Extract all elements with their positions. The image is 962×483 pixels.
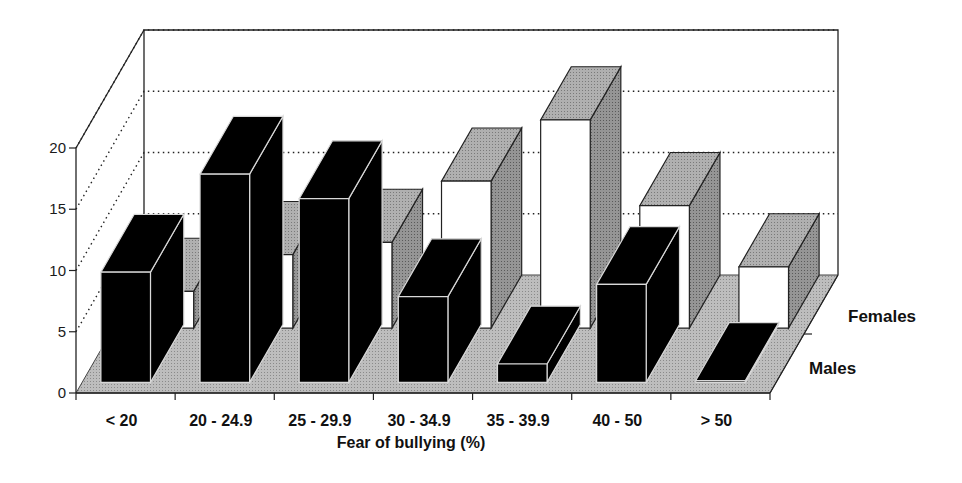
x-category-label: 20 - 24.9 (189, 412, 252, 429)
y-tick-label: 15 (49, 200, 66, 217)
x-category-label: 25 - 29.9 (288, 412, 351, 429)
x-category-label: 30 - 34.9 (387, 412, 450, 429)
y-tick-label: 10 (49, 262, 66, 279)
series-label-males: Males (809, 359, 856, 378)
x-category-label: 35 - 39.9 (487, 412, 550, 429)
y-tick-label: 5 (58, 323, 66, 340)
x-axis-title: Fear of bullying (%) (337, 434, 485, 451)
series-label-females: Females (848, 307, 916, 326)
male-bar-1 (200, 116, 283, 382)
male-bar-2 (299, 141, 382, 383)
x-category-label: < 20 (106, 412, 138, 429)
x-axis-category-labels: < 2020 - 24.925 - 29.930 - 34.935 - 39.9… (106, 412, 733, 429)
y-tick-label: 20 (49, 139, 66, 156)
series-depth-labels: FemalesMales (809, 307, 916, 378)
x-category-label: 40 - 50 (592, 412, 642, 429)
y-tick-label: 0 (58, 384, 66, 401)
x-category-label: > 50 (701, 412, 733, 429)
y-axis-tick-labels: 05101520 (49, 139, 76, 401)
bar-chart-3d: 05101520 < 2020 - 24.925 - 29.930 - 34.9… (0, 0, 962, 483)
